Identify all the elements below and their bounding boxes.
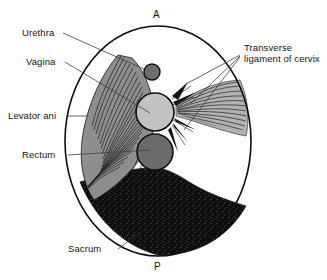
label-rectum: Rectum — [22, 149, 55, 160]
label-vagina: Vagina — [26, 56, 55, 67]
posterior-marker: P — [154, 261, 161, 272]
label-transverse-ligament: Transverse ligament of cervix — [244, 42, 327, 64]
leader-ligament-1 — [186, 55, 240, 84]
anatomical-figure: Urethra Vagina Levator ani Rectum Sacrum… — [0, 0, 327, 280]
leader-urethra — [63, 33, 146, 70]
anterior-marker: A — [153, 9, 160, 20]
label-levator-ani: Levator ani — [8, 110, 56, 121]
urethra-structure — [144, 64, 160, 80]
transverse-ligament-region — [174, 80, 248, 138]
label-transverse-ligament-line2: ligament of cervix — [244, 53, 320, 64]
rectum-structure — [137, 134, 173, 170]
label-transverse-ligament-line1: Transverse — [244, 42, 292, 53]
vagina-structure — [136, 93, 174, 131]
label-urethra: Urethra — [22, 27, 54, 38]
label-sacrum: Sacrum — [68, 243, 101, 254]
